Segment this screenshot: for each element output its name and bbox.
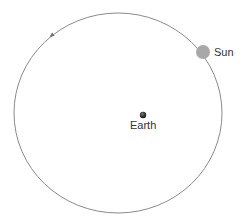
sun-icon [196, 45, 210, 59]
orbit-diagram: Sun Earth [0, 0, 244, 223]
sun-label: Sun [214, 46, 234, 58]
sun-orbit-path [14, 13, 222, 213]
earth-icon [140, 112, 146, 118]
earth-label: Earth [130, 119, 156, 131]
